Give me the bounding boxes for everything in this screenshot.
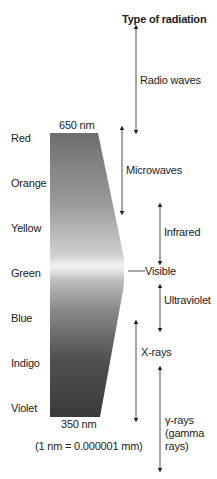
label-gamma-rays-3: rays) — [165, 440, 188, 452]
label-ultraviolet: Ultraviolet — [164, 294, 211, 306]
bottom-wavelength-label: 350 nm — [61, 418, 97, 430]
title: Type of radiation — [122, 13, 206, 25]
color-red: Red — [11, 132, 31, 144]
color-blue: Blue — [11, 312, 32, 324]
label-xrays: X-rays — [141, 346, 172, 358]
label-visible: Visible — [145, 265, 176, 277]
label-gamma-rays-2: (gamma — [165, 427, 204, 439]
label-infrared: Infrared — [164, 226, 200, 238]
label-microwaves: Microwaves — [126, 164, 182, 176]
unit-note: (1 nm = 0.000001 mm) — [35, 440, 143, 452]
visible-spectrum-band — [50, 133, 124, 417]
color-green: Green — [11, 267, 41, 279]
color-orange: Orange — [11, 177, 47, 189]
label-gamma-rays: γ-rays — [165, 414, 194, 426]
color-yellow: Yellow — [11, 222, 41, 234]
top-wavelength-label: 650 nm — [59, 119, 95, 131]
label-radio-waves: Radio waves — [140, 74, 201, 86]
color-violet: Violet — [11, 402, 37, 414]
visible-bracket — [124, 258, 127, 285]
color-indigo: Indigo — [11, 357, 40, 369]
